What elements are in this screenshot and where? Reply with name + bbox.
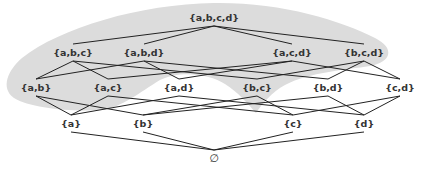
node-d: {d} [354, 118, 374, 129]
edge-ad-d [179, 96, 364, 115]
node-bd: {b,d} [313, 82, 344, 93]
node-ac: {a,c} [93, 82, 122, 93]
edge-a-empty [71, 132, 214, 150]
edge-d-empty [214, 132, 364, 150]
node-bc: {b,c} [242, 82, 272, 93]
node-ad: {a,d} [164, 82, 194, 93]
node-abcd: {a,b,c,d} [189, 12, 239, 23]
node-empty: ∅ [209, 152, 219, 165]
node-a: {a} [61, 118, 81, 129]
node-acd: {a,c,d} [272, 47, 312, 58]
edge-bd-b [143, 96, 328, 115]
node-c: {c} [283, 118, 302, 129]
edge-c-empty [214, 132, 293, 150]
edge-b-empty [143, 132, 214, 150]
node-abc: {a,b,c} [53, 47, 93, 58]
node-abd: {a,b,d} [124, 47, 165, 58]
node-cd: {c,d} [385, 82, 415, 93]
node-ab: {a,b} [21, 82, 51, 93]
node-b: {b} [133, 118, 153, 129]
node-bcd: {b,c,d} [344, 47, 384, 58]
edge-cd-c [293, 96, 400, 115]
hasse-diagram: {a,b,c,d}{a,b,c}{a,b,d}{a,c,d}{b,c,d}{a,… [0, 0, 428, 173]
